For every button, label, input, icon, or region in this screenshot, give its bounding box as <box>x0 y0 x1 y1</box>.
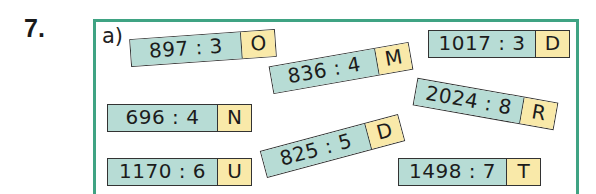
card-expression: 1498 : 7 <box>399 159 507 185</box>
card-letter: N <box>218 105 251 131</box>
division-card: 1498 : 7 T <box>398 158 541 186</box>
card-expression: 696 : 4 <box>108 105 218 131</box>
card-letter: D <box>536 31 569 57</box>
card-letter: R <box>520 98 557 129</box>
division-card: 696 : 4 N <box>107 104 252 132</box>
card-letter: M <box>375 43 412 74</box>
division-card: 1170 : 6 U <box>107 158 252 186</box>
task-number: 7. <box>24 14 45 43</box>
part-label: a) <box>102 24 123 48</box>
card-letter: U <box>218 159 251 185</box>
card-expression: 1017 : 3 <box>429 31 536 57</box>
division-card: 1017 : 3 D <box>428 30 570 58</box>
card-expression: 1170 : 6 <box>108 159 218 185</box>
card-letter: O <box>241 30 276 58</box>
card-letter: T <box>507 159 540 185</box>
